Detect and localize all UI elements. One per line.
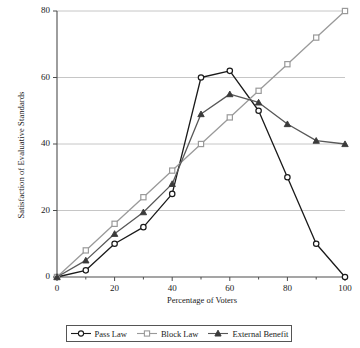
y-tick-label: 0 [24, 271, 50, 281]
legend-item-block-law: Block Law [136, 328, 199, 339]
x-tick-label: 100 [330, 283, 360, 293]
x-tick-label: 0 [42, 283, 72, 293]
legend-key-filled-triangle-icon [207, 328, 229, 339]
legend-key-open-circle-icon [70, 328, 92, 339]
y-tick-label: 60 [24, 72, 50, 82]
legend-item-pass-law: Pass Law [70, 328, 127, 339]
legend-label-pass-law: Pass Law [95, 329, 127, 339]
y-tick-label: 20 [24, 205, 50, 215]
x-tick-label: 80 [272, 283, 302, 293]
y-axis-ticks [53, 11, 57, 277]
x-axis-title: Percentage of Voters [57, 295, 347, 305]
y-tick-label: 40 [24, 138, 50, 148]
y-tick-label: 80 [24, 5, 50, 15]
y-axis-title: Satisfaction of Evaluative Standards [16, 40, 26, 270]
legend-label-block-law: Block Law [161, 329, 199, 339]
chart-figure: 020406080 020406080100 Satisfaction of E… [0, 0, 360, 348]
series-external-benefit [54, 91, 348, 280]
x-axis-ticks [57, 277, 345, 281]
legend-label-external-benefit: External Benefit [232, 329, 288, 339]
x-tick-label: 40 [157, 283, 187, 293]
x-tick-label: 60 [215, 283, 245, 293]
legend-key-open-square-icon [136, 328, 158, 339]
chart-legend: Pass Law Block Law External Benefit [66, 325, 292, 342]
legend-item-external-benefit: External Benefit [207, 328, 288, 339]
x-tick-label: 20 [100, 283, 130, 293]
